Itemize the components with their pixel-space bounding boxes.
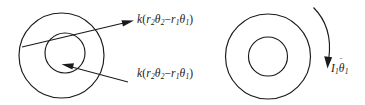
upper-force-leader [22,22,128,47]
rotation-arc [314,8,330,59]
inertia-angular-acceleration-label: I1¨θ1 [331,62,348,76]
right-disk-assembly [226,14,311,99]
force-paren-close-upper: ) [189,13,193,25]
force-paren-close-lower: ) [189,67,193,79]
upper-force-arrow [22,20,134,47]
right-inner-disk [249,37,288,76]
lower-arrowhead-icon [62,63,75,69]
angular-acceleration-arrow [314,8,333,69]
right-outer-disk [226,14,311,99]
left-outer-disk [19,13,104,98]
left-disk-assembly [19,13,104,98]
mechanics-diagram: k(r2θ2−r1θ1) k(r2θ2−r1θ1) I1¨θ1 [0,0,365,105]
spring-force-label-lower: k(r2θ2−r1θ1) [137,67,193,81]
theta-double-dot-group: ¨θ [339,62,345,74]
lower-force-leader [68,66,128,82]
double-dot-accent-icon: ¨ [340,57,344,65]
theta-sub: 1 [345,67,349,76]
left-inner-disk [45,33,85,73]
spring-force-label-upper: k(r2θ2−r1θ1) [137,13,193,27]
lower-force-arrow [62,63,129,82]
upper-arrowhead-icon [122,20,135,26]
